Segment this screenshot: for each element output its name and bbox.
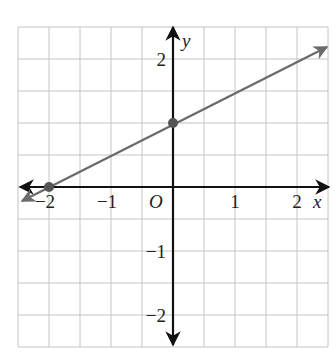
x-tick-label: −2: [35, 191, 55, 212]
x-tick-label: 2: [292, 191, 302, 212]
y-tick-label: −2: [146, 305, 166, 326]
x-tick-label: −1: [97, 191, 117, 212]
x-tick-label: 1: [230, 191, 240, 212]
x-tick-labels: −2−112: [35, 191, 302, 212]
x-axis-label: x: [312, 191, 322, 212]
data-point: [168, 118, 178, 128]
y-axis-label: y: [180, 30, 191, 51]
y-tick-label: −1: [146, 241, 166, 262]
y-tick-label: 2: [157, 49, 167, 70]
origin-label: O: [149, 191, 163, 212]
coordinate-plane: y x O −2−112 2−1−2: [0, 0, 336, 361]
